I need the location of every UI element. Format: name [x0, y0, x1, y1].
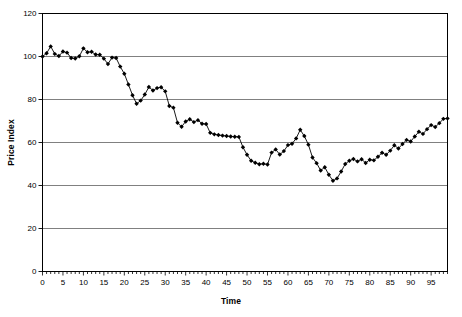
x-tick-label: 70: [319, 278, 339, 287]
y-tick-label: 20: [11, 224, 37, 233]
x-tick-label: 65: [298, 278, 318, 287]
x-tick-label: 90: [401, 278, 421, 287]
x-tick-label: 10: [73, 278, 93, 287]
x-tick-label: 45: [217, 278, 237, 287]
x-tick-label: 80: [360, 278, 380, 287]
y-tick-label: 40: [11, 181, 37, 190]
chart-plot-area: [0, 0, 462, 317]
y-tick-label: 120: [11, 9, 37, 18]
x-tick-label: 40: [196, 278, 216, 287]
y-tick-label: 100: [11, 52, 37, 61]
x-tick-label: 95: [421, 278, 441, 287]
x-tick-label: 15: [94, 278, 114, 287]
x-tick-label: 25: [135, 278, 155, 287]
x-tick-label: 75: [339, 278, 359, 287]
x-tick-label: 0: [33, 278, 53, 287]
x-tick-label: 60: [278, 278, 298, 287]
y-tick-label: 80: [11, 95, 37, 104]
x-tick-label: 50: [237, 278, 257, 287]
x-axis-title: Time: [0, 296, 462, 306]
x-tick-label: 30: [155, 278, 175, 287]
x-tick-label: 20: [114, 278, 134, 287]
x-tick-label: 55: [258, 278, 278, 287]
price-index-line-chart: Price Index Time 02040608010012005101520…: [0, 0, 462, 317]
x-tick-label: 35: [176, 278, 196, 287]
x-tick-label: 5: [53, 278, 73, 287]
y-tick-label: 60: [11, 138, 37, 147]
y-axis-ticks: [39, 14, 43, 272]
x-tick-label: 85: [380, 278, 400, 287]
y-tick-label: 0: [11, 267, 37, 276]
x-axis-ticks: [43, 272, 448, 276]
